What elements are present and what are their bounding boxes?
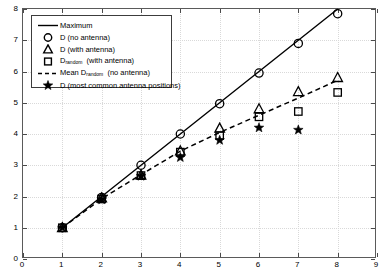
legend-label-subscript: random [65,59,82,65]
legend-label: D (most common antenna positions) [60,81,180,90]
legend-item[interactable]: D (most common antenna positions) [36,79,167,91]
x-tick-mark [377,253,378,257]
x-tick-label: 9 [374,260,378,269]
y-tick-label: 7 [14,35,18,44]
legend-item[interactable]: D (no antenna) [36,31,167,43]
series-dashed-line [62,80,337,228]
mean-random-dashed-line [62,80,337,228]
legend-label: D (with antenna) [60,45,115,54]
legend-symbol [36,67,60,79]
y-tick-label: 1 [14,222,18,231]
legend-symbol [36,43,60,55]
legend-symbol [36,19,60,31]
legend-item[interactable]: Drandom (with antenna) [36,55,167,67]
star-legend-icon [37,80,59,91]
dashed-legend-icon [37,68,59,79]
legend-symbol [36,55,60,67]
chart-legend: MaximumD (no antenna)D (with antenna)Dra… [31,15,172,88]
datapoint-circle [216,100,224,108]
legend-label: Mean Drandom (no antenna) [60,68,150,79]
line-legend-icon [37,20,59,31]
x-tick-label: 4 [177,260,181,269]
x-tick-label: 0 [20,260,24,269]
legend-symbol [36,79,60,91]
series-triangle [58,73,343,232]
datapoint-triangle [254,104,264,113]
y-tick-label: 2 [14,191,18,200]
x-tick-label: 1 [59,260,63,269]
datapoint-star [254,123,264,132]
datapoint-triangle [294,87,304,96]
circle-legend-icon [37,32,59,43]
x-tick-label: 3 [138,260,142,269]
y-tick-label: 6 [14,66,18,75]
x-tick-mark [377,9,378,13]
series-square [59,89,342,232]
triangle-legend-icon [37,44,59,55]
series-star [58,123,304,232]
x-tick-label: 5 [216,260,220,269]
legend-label: Maximum [60,21,93,30]
legend-symbol [36,31,60,43]
figure-canvas: 0123456789 012345678 MaximumD (no antenn… [0,0,386,278]
y-tick-label: 8 [14,4,18,13]
x-tick-label: 8 [334,260,338,269]
datapoint-circle [334,10,342,18]
legend-item[interactable]: Mean Drandom (no antenna) [36,67,167,79]
datapoint-triangle [333,73,343,82]
legend-item[interactable]: D (with antenna) [36,43,167,55]
x-tick-label: 2 [98,260,102,269]
legend-label: Drandom (with antenna) [60,56,134,67]
datapoint-star [294,125,304,134]
y-tick-label: 4 [14,129,18,138]
legend-item[interactable]: Maximum [36,19,167,31]
y-tick-label: 3 [14,160,18,169]
legend-label-subscript: random [86,71,103,77]
square-legend-icon [37,56,59,67]
datapoint-square [295,108,302,115]
legend-label: D (no antenna) [60,33,110,42]
datapoint-square [334,89,341,96]
x-tick-label: 6 [256,260,260,269]
y-tick-label: 5 [14,97,18,106]
y-tick-label: 0 [14,254,18,263]
x-tick-label: 7 [295,260,299,269]
